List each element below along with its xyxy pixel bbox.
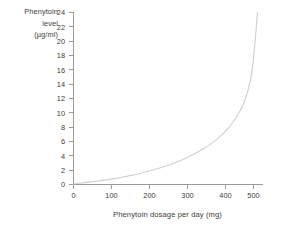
x-tick-label: 0 <box>71 191 75 200</box>
y-axis: 24 22 20 18 16 14 12 10 8 6 4 2 0 <box>57 8 74 189</box>
y-tick-label: 24 <box>57 8 65 17</box>
y-tick-label: 18 <box>57 51 65 60</box>
y-tick-label: 16 <box>57 66 65 75</box>
y-tick-label: 8 <box>61 123 65 132</box>
y-tick-label: 10 <box>57 109 65 118</box>
phenytoin-dose-level-chart: Phenytoin level (µg/ml) 24 <box>0 0 290 229</box>
x-axis-tick-labels: 0 100 200 300 400 500 <box>71 191 259 200</box>
x-axis-title: Phenytoin dosage per day (mg) <box>60 210 275 219</box>
y-axis-tick-labels: 24 22 20 18 16 14 12 10 8 6 4 2 0 <box>57 8 65 189</box>
y-tick-label: 12 <box>57 94 65 103</box>
y-tick-label: 6 <box>61 137 65 146</box>
y-tick-label: 20 <box>57 37 65 46</box>
x-tick-label: 400 <box>219 191 231 200</box>
y-tick-label: 0 <box>61 180 65 189</box>
y-tick-label: 2 <box>61 166 65 175</box>
y-tick-label: 22 <box>57 23 65 32</box>
y-tick-label: 4 <box>61 152 65 161</box>
x-tick-label: 300 <box>181 191 193 200</box>
x-tick-label: 500 <box>247 191 259 200</box>
phenytoin-level-curve <box>73 12 258 184</box>
y-axis-ticks <box>69 13 74 185</box>
plot-area: 24 22 20 18 16 14 12 10 8 6 4 2 0 <box>0 0 290 229</box>
x-tick-label: 100 <box>105 191 117 200</box>
x-tick-label: 200 <box>143 191 155 200</box>
y-tick-label: 14 <box>57 80 65 89</box>
x-axis-ticks <box>74 185 254 190</box>
x-axis: 0 100 200 300 400 500 <box>71 185 263 201</box>
